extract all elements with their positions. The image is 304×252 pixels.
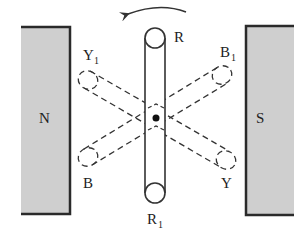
svg-text:Y: Y [221,175,232,191]
svg-text:R: R [174,29,184,45]
label-b1: B 1 [220,44,236,63]
svg-text:1: 1 [231,52,236,63]
svg-text:B: B [83,175,93,191]
label-y1: Y 1 [83,47,99,66]
label-r1: R 1 [147,211,163,230]
svg-text:B: B [220,44,230,60]
pivot-axis-dot [153,115,160,122]
svg-text:1: 1 [158,219,163,230]
north-magnet: N [21,27,70,214]
label-r: R [174,29,184,45]
svg-text:Y: Y [83,47,94,63]
diagram-canvas: N S [0,0,304,252]
south-magnet-label: S [256,110,264,126]
north-magnet-label: N [39,110,50,126]
svg-text:1: 1 [94,55,99,66]
svg-text:R: R [147,211,157,227]
south-magnet: S [246,26,294,215]
alternator-diagram: N S [0,0,304,252]
rotation-arrow-icon [128,7,186,14]
label-b: B [83,175,93,191]
label-y: Y [221,175,232,191]
